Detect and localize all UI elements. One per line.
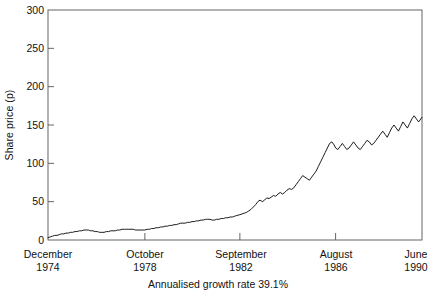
x-tick-december-1974: December 1974 [24,248,72,273]
x-tick-october-1978: October 1978 [126,248,163,273]
x-tick-month-2: September [215,248,266,260]
chart-caption: Annualised growth rate 39.1% [0,278,436,290]
x-tick-september-1982: September 1982 [215,248,266,273]
x-tick-month-4: June [405,248,428,260]
x-tick-year-1: 1978 [126,261,163,274]
x-tick-month-3: August [320,248,353,260]
x-tick-june-1990: June 1990 [404,248,427,273]
x-tick-august-1986: August 1986 [320,248,353,273]
x-tick-year-4: 1990 [404,261,427,274]
plot-frame [48,10,422,240]
x-tick-month-0: December [24,248,72,260]
chart-figure: Share price (p) 300 250 200 150 100 50 0… [0,0,436,297]
x-tick-year-0: 1974 [24,261,72,274]
series-line-0 [48,116,422,238]
x-tick-year-2: 1982 [215,261,266,274]
x-tick-year-3: 1986 [320,261,353,274]
x-tick-month-1: October [126,248,163,260]
